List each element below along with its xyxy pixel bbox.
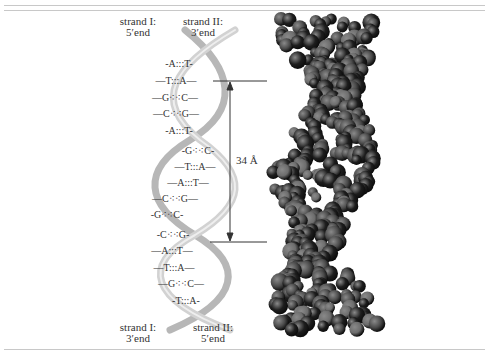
space-filling-model <box>0 0 491 356</box>
